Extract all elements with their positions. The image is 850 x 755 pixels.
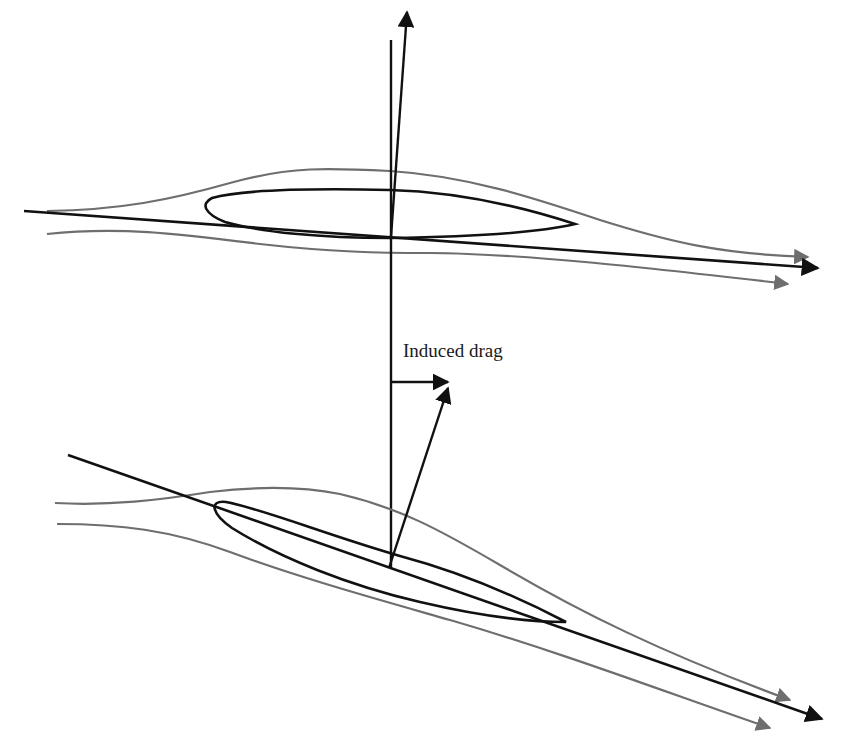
top-upper-streamline xyxy=(47,169,808,257)
induced-drag-label: Induced drag xyxy=(403,340,503,362)
bottom-lower-streamline xyxy=(57,524,770,728)
bottom-panel xyxy=(55,382,822,728)
top-lift-arrow xyxy=(391,12,407,237)
top-panel xyxy=(24,12,818,568)
induced-drag-diagram xyxy=(0,0,850,755)
top-chord-line xyxy=(24,211,818,268)
bottom-chord-line xyxy=(68,455,822,719)
bottom-resultant-arrow xyxy=(389,388,448,568)
